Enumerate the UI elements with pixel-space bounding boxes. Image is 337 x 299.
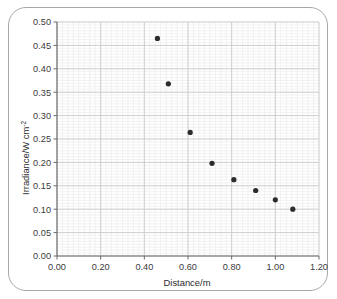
chart-plot-area: 0.000.200.400.600.801.001.20 0.000.050.1…: [9, 8, 329, 292]
data-point: [209, 161, 214, 166]
data-point: [273, 197, 278, 202]
data-point: [155, 36, 160, 41]
x-tick-label: 1.20: [310, 262, 328, 272]
y-axis-title-text: Irradiance/W cm-2: [20, 121, 31, 195]
data-point: [188, 130, 193, 135]
x-tick-label: 0.20: [92, 262, 110, 272]
y-tick-label: 0.35: [33, 88, 51, 98]
x-axis-tick-labels: 0.000.200.400.600.801.001.20: [48, 262, 328, 272]
y-tick-label: 0.15: [33, 181, 51, 191]
y-tick-label: 0.40: [33, 64, 51, 74]
y-tick-label: 0.05: [33, 228, 51, 238]
data-point: [231, 177, 236, 182]
y-tick-label: 0.50: [33, 17, 51, 27]
x-axis-title: Distance/m: [164, 277, 211, 288]
y-tick-label: 0.45: [33, 41, 51, 51]
figure-card: 0.000.200.400.600.801.001.20 0.000.050.1…: [8, 7, 328, 291]
x-tick-label: 0.80: [223, 262, 241, 272]
y-tick-label: 0.10: [33, 205, 51, 215]
data-point: [166, 81, 171, 86]
y-tick-label: 0.00: [33, 251, 51, 261]
x-tick-label: 1.00: [266, 262, 284, 272]
y-tick-label: 0.25: [33, 134, 51, 144]
data-point: [290, 207, 295, 212]
x-tick-label: 0.40: [135, 262, 153, 272]
x-tick-label: 0.00: [48, 262, 66, 272]
y-tick-label: 0.30: [33, 111, 51, 121]
data-point: [253, 188, 258, 193]
y-axis-title: Irradiance/W cm-2: [20, 121, 31, 195]
y-tick-label: 0.20: [33, 158, 51, 168]
irradiance-vs-distance-scatter-chart: 0.000.200.400.600.801.001.20 0.000.050.1…: [9, 8, 329, 292]
y-axis-tick-labels: 0.000.050.100.150.200.250.300.350.400.45…: [33, 17, 51, 261]
x-tick-label: 0.60: [179, 262, 197, 272]
